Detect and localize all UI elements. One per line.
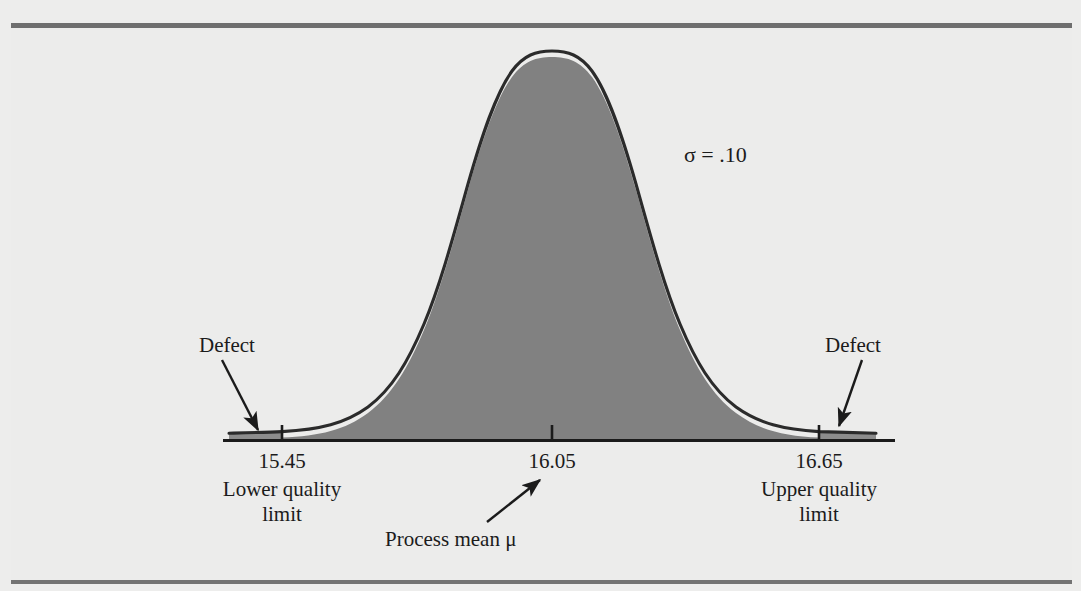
defect-label-right: Defect (825, 333, 881, 358)
sigma-annotation: σ = .10 (684, 142, 747, 168)
defect-right-arrow (839, 360, 862, 426)
lower-limit-line1: Lower quality (223, 477, 341, 502)
normal-curve-plot (0, 0, 1081, 591)
lower-limit-line2: limit (223, 502, 341, 527)
figure-panel: σ = .10 Defect Defect 15.45 16.05 16.65 … (0, 0, 1081, 591)
normal-curve-fill (282, 57, 819, 440)
upper-limit-line1: Upper quality (761, 477, 877, 502)
lower-quality-limit-caption: Lower quality limit (223, 477, 341, 527)
tick-label-process-mean: 16.05 (528, 449, 575, 474)
defect-label-left: Defect (199, 333, 255, 358)
process-mean-arrow (487, 480, 540, 522)
tick-label-lower-limit: 15.45 (258, 449, 305, 474)
upper-limit-line2: limit (761, 502, 877, 527)
tick-label-upper-limit: 16.65 (795, 449, 842, 474)
upper-quality-limit-caption: Upper quality limit (761, 477, 877, 527)
defect-left-arrow (222, 360, 258, 430)
process-mean-caption: Process mean μ (385, 527, 516, 552)
